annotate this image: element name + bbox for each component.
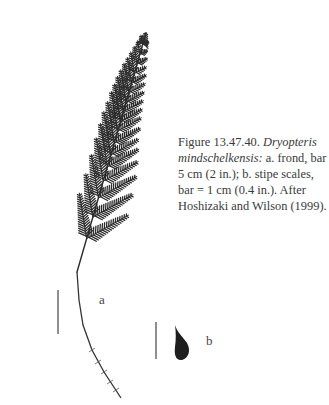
figure-caption: Figure 13.47.40. Dryopteris mindschelken… [178, 134, 328, 214]
frond-drawing [77, 33, 149, 272]
panel-label-a: a [99, 292, 105, 308]
caption-line: Hoshizaki and Wilson (1999). [178, 198, 328, 214]
panel-label-b: b [206, 333, 213, 349]
caption-line: 5 cm (2 in.); b. stipe scales, [178, 166, 328, 182]
caption-line: Figure 13.47.40. Dryopteris [178, 134, 328, 150]
stipe-hairs [89, 348, 119, 392]
stipe [77, 272, 121, 398]
caption-line: bar = 1 cm (0.4 in.). After [178, 182, 328, 198]
caption-line: mindschelkensis: a. frond, bar = [178, 150, 328, 166]
stipe-scale-drawing [175, 325, 189, 360]
